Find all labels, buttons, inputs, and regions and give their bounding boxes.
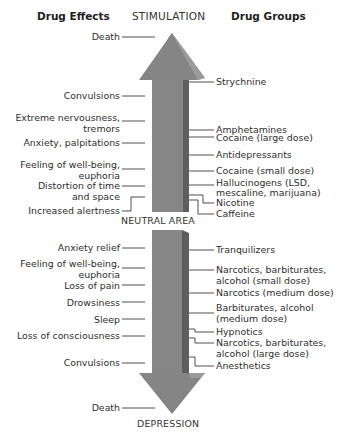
effect-label: Loss of pain xyxy=(64,281,120,291)
drug-group-label: Cocaine (large dose) xyxy=(216,133,313,143)
drug-group-label: Cocaine (small dose) xyxy=(216,166,314,176)
effect-label-line2: euphoria xyxy=(78,270,120,280)
effect-label: Anxiety, palpitations xyxy=(23,138,120,148)
drug-group-label: Narcotics (medium dose) xyxy=(216,288,334,298)
effect-label: Death xyxy=(92,32,120,42)
effect-label-line2: tremors xyxy=(83,124,120,134)
drug-group-label-line2: alcohol (large dose) xyxy=(216,349,309,359)
effect-label: Sleep xyxy=(94,315,120,325)
effect-label: Drowsiness xyxy=(67,298,120,308)
drug-group-label-line2: (medium dose) xyxy=(216,314,287,324)
drug-group-label: Narcotics, barbiturates, xyxy=(216,265,326,275)
effect-label: Extreme nervousness, xyxy=(15,113,120,123)
drug-group-label: Strychnine xyxy=(216,77,266,87)
drug-group-label: Anesthetics xyxy=(216,361,271,371)
drug-group-label: Nicotine xyxy=(216,198,255,208)
effect-label: Anxiety relief xyxy=(58,243,120,253)
drug-group-label-line2: alcohol (small dose) xyxy=(216,276,310,286)
neutral-area-label: NEUTRAL AREA xyxy=(121,215,195,226)
drug-effects-header: Drug Effects xyxy=(37,10,110,22)
depression-label: DEPRESSION xyxy=(137,418,199,429)
drug-group-label: Narcotics, barbiturates, xyxy=(216,338,326,348)
stimulation-label: STIMULATION xyxy=(132,10,205,22)
drug-groups-header: Drug Groups xyxy=(231,10,306,22)
effect-label: Feeling of well-being, xyxy=(20,160,120,170)
drug-group-label: Tranquilizers xyxy=(216,245,275,255)
effect-label: Distortion of time xyxy=(38,181,120,191)
depression-arrow-icon xyxy=(139,230,205,414)
effect-label: Convulsions xyxy=(64,91,120,101)
drug-group-label: Hypnotics xyxy=(216,327,263,337)
effect-label: Death xyxy=(92,403,120,413)
drug-group-label: Barbiturates, alcohol xyxy=(216,303,314,313)
effect-label-line2: and space xyxy=(72,192,120,202)
drug-group-label: Antidepressants xyxy=(216,150,292,160)
effect-label: Feeling of well-being, xyxy=(20,259,120,269)
effect-label: Increased alertness xyxy=(28,206,120,216)
drug-effects-diagram: Drug Effects STIMULATION Drug Groups NEU… xyxy=(0,0,343,437)
drug-group-label: Caffeine xyxy=(216,209,255,219)
effect-label: Loss of consciousness xyxy=(17,331,120,341)
effect-label: Convulsions xyxy=(64,358,120,368)
